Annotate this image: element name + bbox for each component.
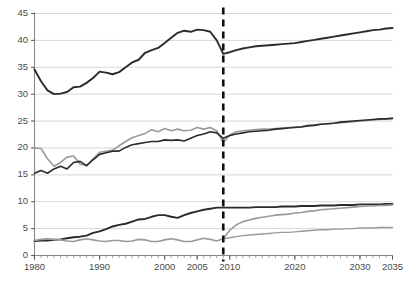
y-tick-label-5: 5 bbox=[2, 223, 28, 233]
data-series-group bbox=[35, 28, 393, 242]
series-line-bottom-dark-series bbox=[35, 204, 393, 241]
x-major-ticks bbox=[35, 256, 393, 260]
series-line-top-dark-series bbox=[35, 28, 393, 94]
series-line-bottom-gray-rising-series bbox=[35, 205, 393, 242]
x-tick-label-2010: 2010 bbox=[210, 262, 250, 272]
y-tick-label-0: 0 bbox=[2, 250, 28, 260]
y-tick-label-30: 30 bbox=[2, 89, 28, 99]
series-line-bottom-gray-flat-series bbox=[223, 228, 392, 239]
axis-lines bbox=[35, 13, 393, 256]
x-tick-label-1980: 1980 bbox=[15, 262, 55, 272]
series-line-middle-gray-series bbox=[35, 118, 393, 166]
x-tick-label-1990: 1990 bbox=[80, 262, 120, 272]
y-tick-label-35: 35 bbox=[2, 62, 28, 72]
y-tick-label-25: 25 bbox=[2, 116, 28, 126]
x-tick-label-2020: 2020 bbox=[275, 262, 315, 272]
gridlines bbox=[35, 14, 393, 229]
y-tick-label-45: 45 bbox=[2, 8, 28, 18]
y-tick-label-40: 40 bbox=[2, 35, 28, 45]
y-tick-label-10: 10 bbox=[2, 196, 28, 206]
series-line-middle-dark-series bbox=[35, 118, 393, 173]
x-tick-label-2035: 2035 bbox=[373, 262, 408, 272]
y-tick-label-20: 20 bbox=[2, 142, 28, 152]
y-tick-label-15: 15 bbox=[2, 169, 28, 179]
